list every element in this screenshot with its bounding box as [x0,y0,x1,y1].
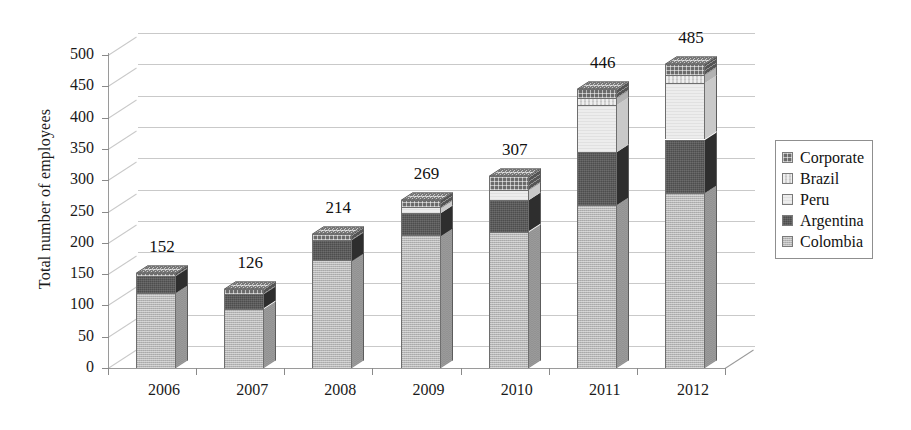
bar-segment-2012-peru[interactable] [665,83,705,139]
y-axis-tick-label: 150 [48,265,94,281]
legend-item-colombia[interactable]: Colombia [782,231,864,252]
bar-segment-side-2006-colombia [176,285,188,368]
x-axis-category-label-2008: 2008 [300,381,380,399]
x-axis-category-label-2010: 2010 [477,381,557,399]
x-axis-tick [637,368,638,375]
bar-segment-side-2008-colombia [352,253,364,368]
legend-swatch-corporate-icon [782,152,793,163]
gridline-depth-edge [108,256,137,275]
legend-swatch-brazil-icon [782,173,793,184]
stacked-bar-chart: Total number of employees 05010015020025… [0,0,911,430]
legend-item-argentina[interactable]: Argentina [782,210,864,231]
gridline-depth-edge [108,318,137,337]
bar-segment-2007-argentina[interactable] [224,294,264,308]
bar-segment-2009-corporate[interactable] [401,200,441,208]
x-axis-category-label-2011: 2011 [565,381,645,399]
bar-segment-2012-brazil[interactable] [665,75,705,83]
bar-segment-side-2009-colombia [441,227,453,367]
bar-segment-2008-argentina[interactable] [312,240,352,261]
gridline-depth-edge [108,37,137,56]
gridline-depth-edge [108,193,137,212]
bar-segment-2012-colombia[interactable] [665,193,705,368]
legend-item-peru[interactable]: Peru [782,189,864,210]
bar-segment-2007-corporate[interactable] [224,289,264,294]
x-axis-category-label-2009: 2009 [389,381,469,399]
bar-segment-2009-argentina[interactable] [401,213,441,236]
x-axis-tick [108,368,109,375]
y-axis-tick [102,305,109,306]
y-axis-tick-label: 100 [48,296,94,312]
bar-segment-side-2011-peru [617,97,629,152]
bar-segment-side-2012-colombia [705,185,717,368]
x-axis-tick [549,368,550,375]
y-axis-tick-label: 200 [48,234,94,250]
y-axis-tick [102,243,109,244]
bar-total-label-2011: 446 [568,53,638,73]
gridline-depth-edge [108,130,137,149]
bar-segment-2012-corporate[interactable] [665,64,705,75]
bar-total-label-2007: 126 [215,253,285,273]
x-axis-tick [196,368,197,375]
bar-segment-2010-corporate[interactable] [489,176,529,190]
bar-segment-2006-colombia[interactable] [136,293,176,368]
bar-segment-2010-peru[interactable] [489,190,529,200]
legend-label: Corporate [800,149,864,167]
x-axis-line [108,368,725,369]
bar-segment-2011-peru[interactable] [577,105,617,152]
gridline [138,158,755,159]
bar-segment-2010-argentina[interactable] [489,200,529,231]
bar-segment-2011-argentina[interactable] [577,152,617,205]
bar-segment-2009-peru[interactable] [401,207,441,213]
bar-segment-2009-colombia[interactable] [401,235,441,368]
gridline [138,96,755,97]
bar-segment-2011-corporate[interactable] [577,89,617,98]
gridline [138,64,755,65]
y-axis-tick [102,274,109,275]
bar-segment-2012-argentina[interactable] [665,140,705,193]
legend: CorporateBrazilPeruArgentinaColombia [775,140,873,259]
x-axis-category-label-2007: 2007 [212,381,292,399]
legend-label: Argentina [800,212,864,230]
y-axis-tick [102,118,109,119]
gridline [138,190,755,191]
legend-label: Brazil [800,170,839,188]
y-axis-tick [102,86,109,87]
gridline-depth-edge [108,162,137,181]
bar-segment-2011-brazil[interactable] [577,98,617,105]
gridline-depth-edge [108,287,137,306]
bar-segment-side-2010-colombia [529,224,541,368]
bar-total-label-2008: 214 [303,198,373,218]
legend-item-corporate[interactable]: Corporate [782,147,864,168]
gridline-depth-edge [108,99,137,118]
legend-swatch-colombia-icon [782,236,793,247]
y-axis-tick-label: 400 [48,109,94,125]
legend-swatch-argentina-icon [782,215,793,226]
bar-segment-2010-colombia[interactable] [489,232,529,368]
y-axis-tick [102,55,109,56]
bar-total-label-2009: 269 [392,164,462,184]
x-axis-tick [461,368,462,375]
y-axis-tick-label: 500 [48,46,94,62]
y-axis-tick-label: 350 [48,140,94,156]
y-axis-tick-label: 0 [48,359,94,375]
y-axis-tick-label: 300 [48,171,94,187]
y-axis-tick [102,212,109,213]
x-axis-category-label-2012: 2012 [653,381,733,399]
y-axis-tick-label: 450 [48,77,94,93]
bar-segment-2006-argentina[interactable] [136,276,176,293]
bar-segment-2006-corporate[interactable] [136,273,176,276]
bar-segment-side-2011-colombia [617,197,629,368]
legend-label: Colombia [800,233,863,251]
y-axis-tick [102,149,109,150]
gridline [138,127,755,128]
bar-segment-2007-colombia[interactable] [224,309,264,368]
bar-total-label-2006: 152 [127,237,197,257]
bar-segment-2008-colombia[interactable] [312,260,352,368]
y-axis-tick-label: 250 [48,203,94,219]
gridline-depth-edge [108,68,137,87]
legend-item-brazil[interactable]: Brazil [782,168,864,189]
bar-segment-2011-colombia[interactable] [577,205,617,368]
bar-segment-2008-corporate[interactable] [312,234,352,240]
bar-segment-side-2012-argentina [705,132,717,193]
y-axis-tick [102,180,109,181]
